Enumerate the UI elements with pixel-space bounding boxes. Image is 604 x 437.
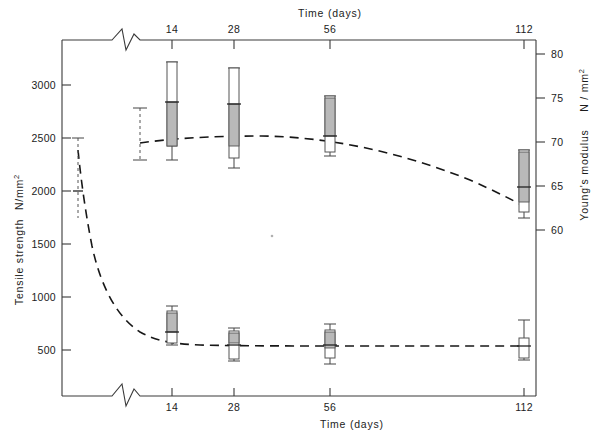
right-tick-label-60: 60 [551, 224, 563, 236]
left-tick-label-2000: 2000 [31, 185, 56, 197]
bottom-tick-label-56: 56 [324, 401, 336, 413]
youngs-modulus-marker-56 [323, 96, 337, 156]
top-tick-label-28: 28 [228, 23, 240, 35]
youngs-modulus-marker-112 [517, 150, 531, 218]
left-tick-label-1000: 1000 [31, 291, 56, 303]
right-axis-unit: N / mm [578, 73, 590, 112]
right-axis-unit-sup: 2 [577, 68, 586, 73]
left-tick-label-1500: 1500 [31, 238, 56, 250]
left-tick-label-500: 500 [38, 344, 56, 356]
tensile-strength-marker-56 [323, 324, 337, 364]
youngs-modulus-marker-14 [165, 62, 179, 160]
svg-text:N / mm2: N / mm2 [577, 68, 590, 112]
top-axis-spine [62, 29, 536, 50]
right-axis-title: Young's modulus [578, 129, 590, 220]
left-tick-label-2500: 2500 [31, 132, 56, 144]
top-tick-label-112: 112 [515, 23, 533, 35]
left-axis-unit-sup: 2 [12, 174, 21, 179]
left-axis-ticks [62, 85, 71, 350]
top-axis-title: Time (days) [298, 7, 362, 19]
bottom-tick-label-14: 14 [166, 401, 178, 413]
bottom-axis-title: Time (days) [320, 418, 384, 430]
bottom-axis-spine [62, 384, 536, 406]
left-axis-title-unit: N/mm2 [12, 174, 25, 210]
tensile-strength-curve [78, 150, 524, 346]
right-tick-label-75: 75 [551, 92, 563, 104]
top-tick-label-14: 14 [166, 23, 178, 35]
top-tick-label-56: 56 [324, 23, 336, 35]
tensile-strength-marker-28 [227, 328, 241, 361]
right-tick-label-70: 70 [551, 136, 563, 148]
left-axis-title-line1: Tensile strength [13, 219, 25, 305]
right-tick-label-80: 80 [551, 48, 563, 60]
tensile-strength-marker-14 [165, 306, 179, 345]
right-axis-ticks [536, 54, 545, 230]
bottom-axis-ticks [172, 388, 524, 396]
youngs-modulus-marker-28 [227, 68, 241, 168]
tensile-strength-marker-112 [517, 320, 531, 360]
youngs-modulus-marker-7 [133, 108, 147, 160]
bottom-tick-label-112: 112 [515, 401, 533, 413]
left-axis-title: Tensile strength [13, 219, 25, 305]
tensile-strength-marker-0 [72, 138, 84, 218]
bottom-tick-label-28: 28 [228, 401, 240, 413]
right-axis-title-line1: Young's modulus [578, 129, 590, 220]
chart-svg: 14 28 56 112 Time (days) 14 28 56 112 Ti… [0, 0, 604, 437]
figure-canvas: 14 28 56 112 Time (days) 14 28 56 112 Ti… [0, 0, 604, 437]
left-axis-unit: N/mm [13, 179, 25, 210]
top-axis-ticks [172, 40, 524, 49]
right-axis-title-unit: N / mm2 [577, 68, 590, 112]
right-tick-label-65: 65 [551, 180, 563, 192]
svg-text:N/mm2: N/mm2 [12, 174, 25, 210]
left-tick-label-3000: 3000 [31, 79, 56, 91]
scan-speck [271, 235, 274, 238]
